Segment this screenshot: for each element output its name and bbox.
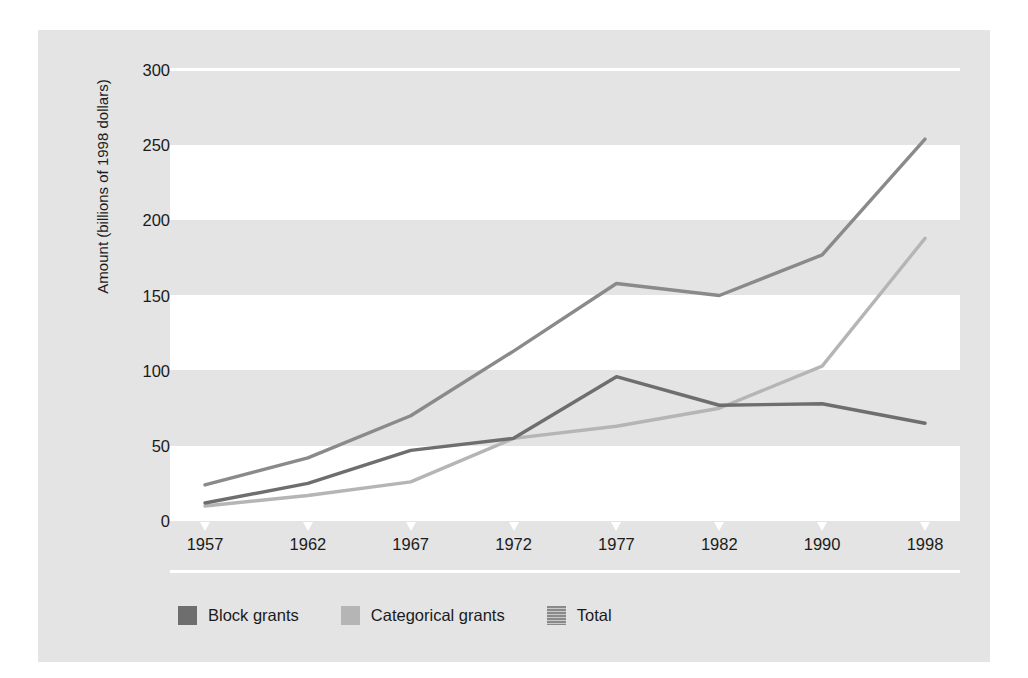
x-axis-tick-label: 1962 [268, 535, 348, 554]
x-axis-tick-mark [200, 522, 210, 531]
x-axis-tick-mark [817, 522, 827, 531]
y-axis-tick-label: 100 [114, 361, 170, 380]
x-axis-tick-label: 1977 [576, 535, 656, 554]
legend-item[interactable]: Total [547, 606, 612, 625]
y-axis-tick-labels: 050100150200250300 [114, 30, 170, 662]
legend-swatch-icon [178, 606, 197, 625]
y-axis-tick-label: 150 [114, 286, 170, 305]
legend-item[interactable]: Categorical grants [341, 606, 505, 625]
y-axis-tick-label: 200 [114, 211, 170, 230]
x-axis-tick-labels: 19571962196719721977198219901998 [38, 535, 990, 565]
x-axis-tick-mark [920, 522, 930, 531]
y-axis-tick-label: 250 [114, 136, 170, 155]
x-axis-tick-mark [714, 522, 724, 531]
x-axis-tick-mark [611, 522, 621, 531]
x-axis-tick-mark [509, 522, 519, 531]
x-axis-tick-label: 1982 [679, 535, 759, 554]
x-axis-tick-label: 1998 [885, 535, 965, 554]
y-axis-title: Amount (billions of 1998 dollars) [94, 37, 111, 337]
plot-area [38, 30, 990, 662]
legend-swatch-icon [547, 606, 566, 625]
legend-item[interactable]: Block grants [178, 606, 299, 625]
chart-legend: Block grantsCategorical grantsTotal [178, 602, 654, 628]
x-axis-tick-label: 1972 [474, 535, 554, 554]
x-axis-tick-label: 1990 [782, 535, 862, 554]
legend-label: Categorical grants [371, 606, 505, 625]
legend-label: Block grants [208, 606, 299, 625]
legend-swatch-icon [341, 606, 360, 625]
chart-figure: Amount (billions of 1998 dollars) 050100… [0, 0, 1028, 678]
x-axis-tick-label: 1957 [165, 535, 245, 554]
y-axis-tick-label: 300 [114, 61, 170, 80]
x-axis-tick-label: 1967 [371, 535, 451, 554]
x-axis-tick-mark [303, 522, 313, 531]
chart-panel: Amount (billions of 1998 dollars) 050100… [38, 30, 990, 662]
y-axis-tick-label: 50 [114, 436, 170, 455]
legend-label: Total [577, 606, 612, 625]
x-axis-tick-mark [406, 522, 416, 531]
y-axis-tick-label: 0 [114, 512, 170, 531]
